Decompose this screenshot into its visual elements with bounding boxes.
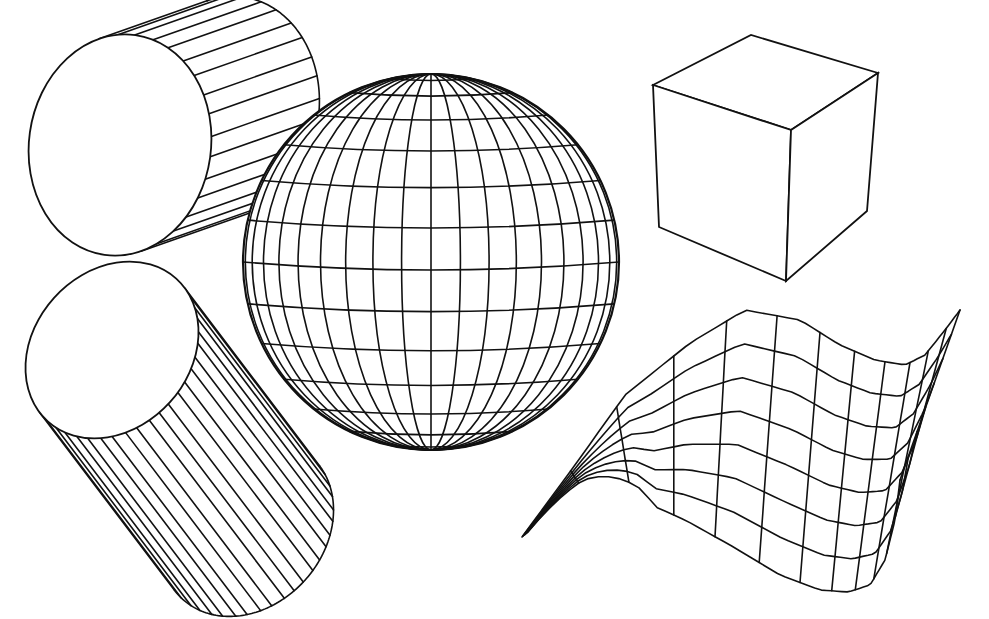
sphere-wireframe	[243, 74, 619, 450]
wireframe-shapes-figure	[0, 0, 989, 619]
cube-wireframe	[653, 35, 878, 281]
figure-canvas	[0, 0, 989, 619]
